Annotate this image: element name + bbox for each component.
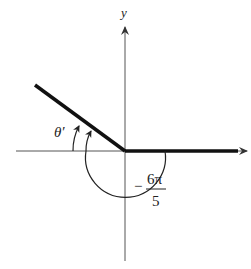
angle-diagram: y θ′ − 6π 5 — [0, 0, 251, 269]
terminal-side — [35, 85, 125, 151]
angle-label-minus: − — [134, 178, 142, 194]
angle-label-numerator: 6π — [147, 171, 163, 187]
y-axis-label: y — [119, 5, 127, 20]
reference-angle-arc — [73, 126, 79, 151]
angle-label-denominator: 5 — [152, 193, 160, 209]
reference-angle-label: θ′ — [54, 124, 65, 140]
